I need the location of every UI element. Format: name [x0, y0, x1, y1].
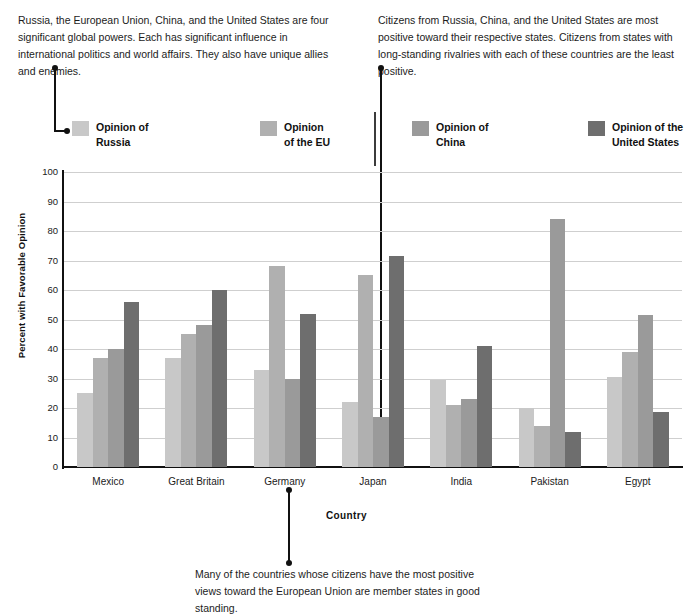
y-axis-tick-label: 60 [30, 284, 58, 295]
y-axis-tick: 30 [28, 373, 58, 383]
bar [342, 402, 358, 467]
bar [519, 408, 535, 467]
bar [358, 275, 374, 467]
bar [653, 412, 669, 467]
bar [285, 379, 301, 468]
y-axis-tick-label: 0 [30, 461, 58, 472]
y-axis-tick-label: 10 [30, 432, 58, 443]
y-axis-tick-label: 100 [30, 166, 58, 177]
y-axis-tick: 100 [28, 166, 58, 176]
bar [108, 349, 124, 467]
bar [77, 393, 93, 467]
bar-chart: Percent with Favorable Opinion 010203040… [0, 0, 693, 614]
y-axis-tick: 10 [28, 432, 58, 442]
bar [212, 290, 228, 467]
bar [124, 302, 140, 467]
y-axis-tick-label: 80 [30, 225, 58, 236]
y-axis-label: Percent with Favorable Opinion [16, 196, 27, 376]
y-axis-tick: 70 [28, 255, 58, 265]
y-axis-tick: 90 [28, 196, 58, 206]
bar [300, 314, 316, 467]
bar [430, 380, 446, 467]
bar [446, 405, 462, 467]
bar [389, 256, 405, 467]
x-axis-tick-label: Japan [329, 476, 417, 487]
bar [269, 266, 285, 467]
bar [196, 325, 212, 467]
x-axis-tick-label: India [417, 476, 505, 487]
bar [622, 352, 638, 467]
bar [93, 358, 109, 467]
x-axis-tick-label: Mexico [64, 476, 152, 487]
y-axis-tick-label: 90 [30, 196, 58, 207]
bar [461, 399, 477, 467]
bar [550, 219, 566, 467]
bar [638, 315, 654, 467]
x-axis-tick-label: Pakistan [505, 476, 593, 487]
y-axis-tick: 50 [28, 314, 58, 324]
y-axis-tick: 40 [28, 343, 58, 353]
bar [565, 432, 581, 467]
y-axis-tick-label: 70 [30, 255, 58, 266]
bar [181, 334, 197, 467]
y-axis-tick-label: 20 [30, 402, 58, 413]
y-axis-tick: 80 [28, 225, 58, 235]
y-axis-tick-label: 50 [30, 314, 58, 325]
bar [607, 377, 623, 467]
x-axis-tick-label: Germany [241, 476, 329, 487]
y-axis-tick-label: 30 [30, 373, 58, 384]
bar [373, 417, 389, 467]
bar [534, 426, 550, 467]
y-axis-tick: 20 [28, 402, 58, 412]
x-axis-tick-label: Great Britain [152, 476, 240, 487]
y-axis-tick-label: 40 [30, 343, 58, 354]
y-axis-tick: 0 [28, 461, 58, 471]
y-axis-tick: 60 [28, 284, 58, 294]
bar [254, 370, 270, 467]
bar [165, 358, 181, 467]
x-axis-tick-label: Egypt [594, 476, 682, 487]
bar [477, 346, 493, 467]
x-axis-label: Country [0, 510, 693, 521]
